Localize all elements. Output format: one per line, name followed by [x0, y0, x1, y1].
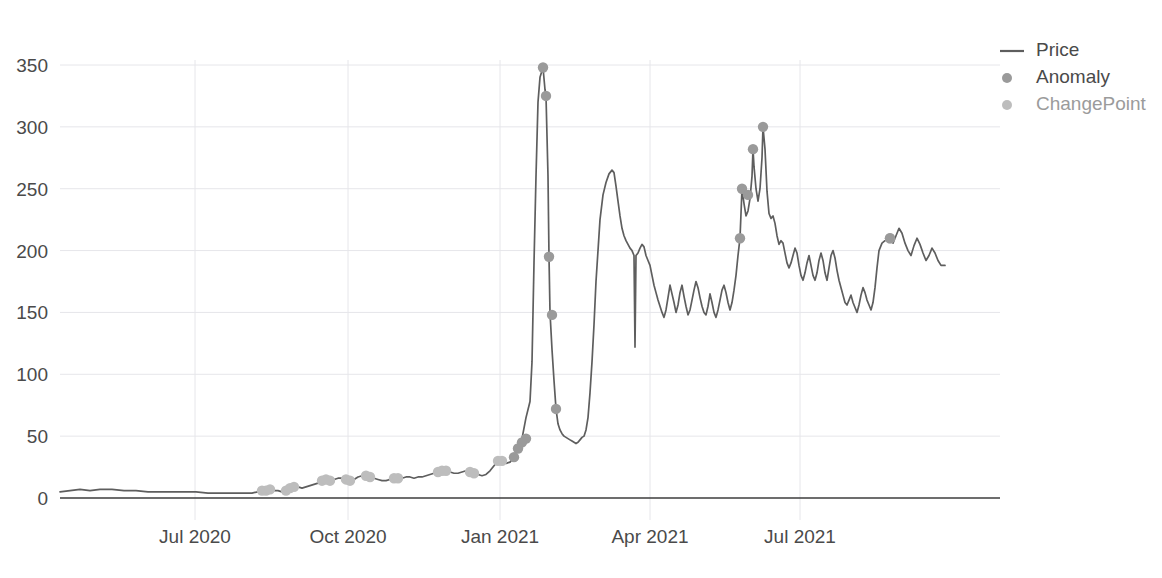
- legend-label-anomaly[interactable]: Anomaly: [1036, 66, 1110, 87]
- anomaly-marker: [538, 62, 548, 72]
- changepoint-marker: [469, 468, 479, 478]
- y-tick-label: 200: [16, 241, 48, 262]
- x-tick-label: Oct 2020: [309, 526, 386, 547]
- y-tick-label: 100: [16, 364, 48, 385]
- changepoint-marker: [345, 475, 355, 485]
- changepoint-marker: [497, 456, 507, 466]
- x-tick-label: Jul 2021: [764, 526, 836, 547]
- legend-dot-marker[interactable]: [1002, 73, 1012, 83]
- legend-label-changepoint[interactable]: ChangePoint: [1036, 93, 1147, 114]
- legend-dot-marker[interactable]: [1002, 100, 1012, 110]
- anomaly-marker: [735, 233, 745, 243]
- chart-legend[interactable]: PriceAnomalyChangePoint: [1000, 39, 1147, 114]
- anomaly-marker: [547, 310, 557, 320]
- changepoint-marker: [393, 473, 403, 483]
- chart-container: 050100150200250300350 Jul 2020Oct 2020Ja…: [0, 0, 1162, 578]
- changepoint-marker: [265, 484, 275, 494]
- anomaly-marker: [541, 91, 551, 101]
- changepoint-marker: [441, 466, 451, 476]
- x-tick-label: Apr 2021: [611, 526, 688, 547]
- y-axis-tick-labels: 050100150200250300350: [16, 55, 48, 509]
- anomaly-marker: [509, 452, 519, 462]
- legend-label-price[interactable]: Price: [1036, 39, 1079, 60]
- x-axis-tick-labels: Jul 2020Oct 2020Jan 2021Apr 2021Jul 2021: [159, 526, 836, 547]
- anomaly-marker: [544, 252, 554, 262]
- x-tick-label: Jan 2021: [461, 526, 539, 547]
- anomaly-marker: [743, 190, 753, 200]
- x-tick-label: Jul 2020: [159, 526, 231, 547]
- y-tick-label: 300: [16, 117, 48, 138]
- changepoint-marker: [289, 482, 299, 492]
- y-tick-label: 0: [37, 488, 48, 509]
- anomaly-markers: [509, 62, 895, 462]
- anomaly-marker: [758, 122, 768, 132]
- changepoint-marker: [365, 472, 375, 482]
- anomaly-marker: [551, 404, 561, 414]
- y-tick-label: 250: [16, 179, 48, 200]
- y-tick-label: 50: [27, 426, 48, 447]
- y-tick-label: 350: [16, 55, 48, 76]
- y-tick-label: 150: [16, 302, 48, 323]
- changepoint-marker: [325, 475, 335, 485]
- gridlines: [60, 60, 1000, 520]
- price-line-series: [60, 67, 945, 493]
- anomaly-marker: [748, 144, 758, 154]
- anomaly-marker: [885, 233, 895, 243]
- price-anomaly-changepoint-chart: 050100150200250300350 Jul 2020Oct 2020Ja…: [0, 0, 1162, 578]
- changepoint-markers: [257, 233, 895, 496]
